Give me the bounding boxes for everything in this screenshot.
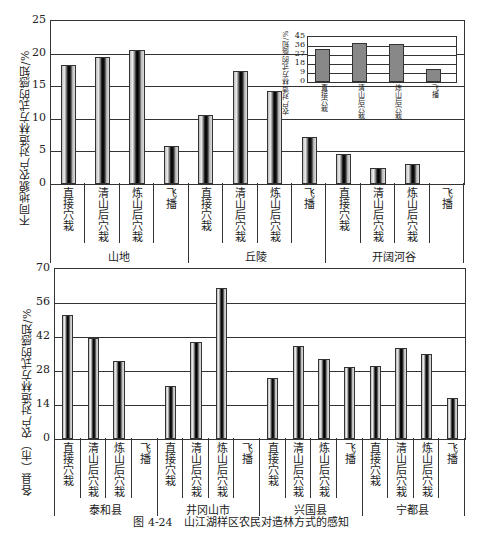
category-separator xyxy=(80,438,81,498)
bar xyxy=(61,65,76,184)
category-separator xyxy=(336,438,337,498)
category-separator xyxy=(463,183,464,263)
bar xyxy=(165,386,176,439)
category-label: 飞播 xyxy=(240,442,252,464)
inset-y-tick-label: 36 xyxy=(291,41,305,49)
group-label: 山地 xyxy=(50,248,188,264)
bar xyxy=(190,342,201,439)
inset-category-label: 飞播 xyxy=(431,84,439,98)
category-label: 飞播 xyxy=(164,187,176,209)
bar xyxy=(164,146,179,184)
gridline xyxy=(51,86,464,87)
bar xyxy=(421,354,432,439)
inset-y-tick-label: 18 xyxy=(291,59,305,67)
inset-category-label: 清山后穴栽 xyxy=(357,84,365,119)
bar xyxy=(405,164,420,184)
bar xyxy=(198,115,213,184)
bar xyxy=(302,137,317,184)
category-label: 清山后穴栽 xyxy=(96,187,108,242)
bar xyxy=(293,346,304,440)
category-label: 炼山后穴栽 xyxy=(130,187,142,242)
category-label: 清山后穴栽 xyxy=(86,442,98,497)
inset-gridline xyxy=(308,64,456,65)
category-separator xyxy=(438,438,439,498)
bar xyxy=(344,367,355,439)
category-separator xyxy=(464,438,465,516)
category-separator xyxy=(360,183,361,243)
category-label: 直接穴栽 xyxy=(337,187,349,231)
bar xyxy=(88,338,99,439)
figure-caption: 图 4-24 山江湖样区农民对造林方式的感知 xyxy=(0,513,482,529)
bar xyxy=(370,366,381,439)
category-separator xyxy=(429,183,430,243)
inset-y-tick-label: 9 xyxy=(291,68,305,76)
inset-bar xyxy=(352,43,367,82)
category-label: 清山后穴栽 xyxy=(291,442,303,497)
category-label: 飞播 xyxy=(440,187,452,209)
inset-bar xyxy=(389,44,404,82)
category-separator xyxy=(387,438,388,498)
category-label: 直接穴栽 xyxy=(368,442,380,486)
inset-plot-area xyxy=(307,36,457,83)
category-label: 直接穴栽 xyxy=(61,442,73,486)
category-label: 直接穴栽 xyxy=(163,442,175,486)
bar xyxy=(113,361,124,439)
bar xyxy=(267,91,282,184)
inset-bar xyxy=(315,49,330,82)
category-label: 炼山后穴栽 xyxy=(317,442,329,497)
inset-y-tick-label: 0 xyxy=(291,77,305,85)
bar xyxy=(318,359,329,439)
bar xyxy=(129,50,144,184)
category-separator xyxy=(105,438,106,498)
inset-bar xyxy=(426,69,441,82)
category-label: 炼山后穴栽 xyxy=(405,187,417,242)
category-separator xyxy=(131,438,132,498)
category-label: 炼山后穴栽 xyxy=(268,187,280,242)
inset-y-tick-label: 27 xyxy=(291,50,305,58)
bar xyxy=(447,398,458,439)
plot-area xyxy=(54,268,466,440)
y-tick-label: 56 xyxy=(28,296,50,308)
bar xyxy=(267,378,278,439)
bar xyxy=(370,168,385,184)
category-label: 直接穴栽 xyxy=(199,187,211,231)
y-tick-label: 70 xyxy=(28,262,50,274)
inset-y-tick-label: 45 xyxy=(291,32,305,40)
category-label: 炼山后穴栽 xyxy=(420,442,432,497)
category-separator xyxy=(84,183,85,243)
bar xyxy=(233,71,248,184)
category-label: 飞播 xyxy=(302,187,314,209)
category-separator xyxy=(310,438,311,498)
inset-gridline xyxy=(308,55,456,56)
category-label: 炼山后穴栽 xyxy=(112,442,124,497)
category-separator xyxy=(285,438,286,498)
gridline xyxy=(51,119,464,120)
category-label: 炼山后穴栽 xyxy=(215,442,227,497)
bar xyxy=(95,57,110,184)
category-separator xyxy=(257,183,258,243)
category-separator xyxy=(233,438,234,498)
category-label: 清山后穴栽 xyxy=(371,187,383,242)
group-label: 开阔河谷 xyxy=(325,248,463,264)
bar xyxy=(336,154,351,184)
category-separator xyxy=(153,183,154,243)
bar xyxy=(62,315,73,439)
inset-category-label: 直接穴栽 xyxy=(320,84,328,112)
category-label: 飞播 xyxy=(343,442,355,464)
category-label: 清山后穴栽 xyxy=(394,442,406,497)
category-label: 直接穴栽 xyxy=(266,442,278,486)
category-label: 飞播 xyxy=(138,442,150,464)
category-label: 直接穴栽 xyxy=(61,187,73,231)
inset-y-axis-label: 农户对造林方式的感知/% xyxy=(281,30,291,115)
inset-gridline xyxy=(308,46,456,47)
gridline xyxy=(51,151,464,152)
category-separator xyxy=(413,438,414,498)
category-separator xyxy=(291,183,292,243)
bar xyxy=(395,348,406,439)
y-axis-label: 不同地貌农户对造林方式的感知/% xyxy=(18,50,34,226)
category-separator xyxy=(222,183,223,243)
y-tick-label: 25 xyxy=(24,14,46,26)
category-label: 清山后穴栽 xyxy=(189,442,201,497)
group-label: 丘陵 xyxy=(188,248,326,264)
y-axis-label: 各县（市）农户对造林方式的感知/% xyxy=(20,308,36,496)
